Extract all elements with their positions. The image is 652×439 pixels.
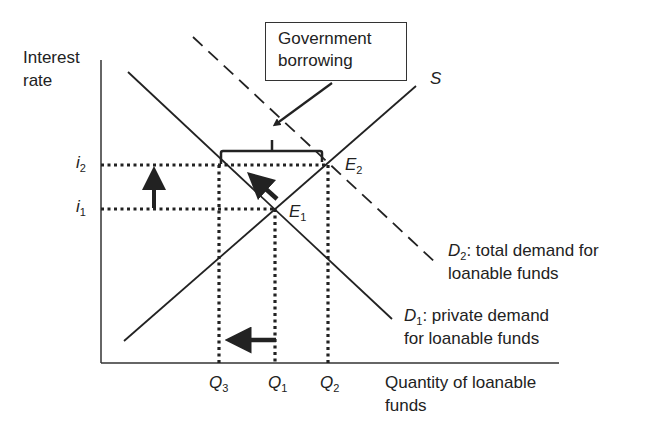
tick-q2: Q2	[320, 373, 339, 394]
e1-label: E1	[289, 202, 306, 223]
supply-curve	[124, 86, 416, 341]
d1-label-line1: D1: private demand	[404, 306, 549, 327]
guide-lines	[101, 165, 328, 363]
e2-label: E2	[345, 155, 362, 176]
y-axis-label-line1: Interest	[23, 48, 80, 68]
government-borrowing-callout: Government borrowing	[265, 22, 407, 81]
tick-q3: Q3	[209, 373, 228, 394]
tick-i1: i1	[76, 197, 86, 218]
supply-label: S	[430, 69, 441, 89]
x-axis-label-line2: funds	[385, 396, 427, 416]
d2-label-line1: D2: total demand for	[448, 241, 599, 262]
callout-line1: Government	[278, 29, 372, 49]
callout-line2: borrowing	[278, 51, 353, 71]
tick-q1: Q1	[268, 373, 287, 394]
tick-i2: i2	[76, 153, 86, 174]
d1-curve	[128, 72, 392, 319]
d1-label-line2: for loanable funds	[404, 329, 539, 349]
callout-arrow	[276, 83, 332, 124]
shortage-bracket	[221, 151, 322, 164]
y-axis-label-line2: rate	[23, 71, 52, 91]
d2-label-line2: loanable funds	[448, 264, 559, 284]
x-axis-label-line1: Quantity of loanable	[385, 373, 536, 393]
